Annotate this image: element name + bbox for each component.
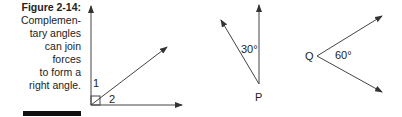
- angle-label-2: 2: [109, 93, 115, 105]
- angle-label-60: 60°: [335, 49, 352, 61]
- vertex-label-q: Q: [305, 50, 314, 62]
- angle-label-30: 30°: [241, 43, 258, 55]
- complementary-angles-figure: [91, 6, 182, 105]
- angle-label-1: 1: [93, 77, 99, 89]
- vertex-label-p: P: [255, 91, 262, 103]
- angle-diagrams: 1 2 30° P Q 60°: [0, 0, 402, 117]
